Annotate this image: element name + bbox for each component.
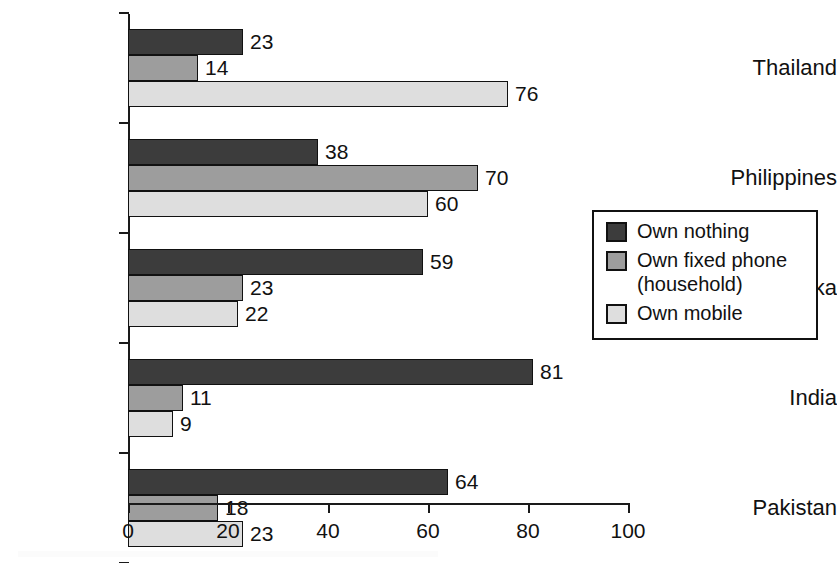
- bar-row: 76: [128, 81, 628, 107]
- y-axis-category-label: Philippines: [719, 165, 837, 191]
- bar-value-label: 23: [243, 29, 273, 55]
- x-axis-tick-label: 0: [98, 518, 158, 543]
- bar[interactable]: [128, 139, 318, 165]
- bar-row: 59: [128, 249, 628, 275]
- bar-row: 64: [128, 469, 628, 495]
- bar-row: 23: [128, 29, 628, 55]
- bar[interactable]: [128, 275, 243, 301]
- legend-item[interactable]: Own fixed phone (household): [606, 248, 816, 296]
- bar-group: 231476: [128, 29, 628, 107]
- bar-row: 9: [128, 411, 628, 437]
- bar-row: 23: [128, 275, 628, 301]
- bar-value-label: 76: [508, 81, 538, 107]
- y-axis-category-label: India: [719, 385, 837, 411]
- bar[interactable]: [128, 191, 428, 217]
- legend-item[interactable]: Own nothing: [606, 219, 816, 243]
- plot-area: 23147638706059232281119641823: [128, 14, 628, 504]
- x-axis-tick-label: 20: [198, 518, 258, 543]
- bar-value-label: 9: [173, 411, 192, 437]
- x-axis-tick: [428, 503, 430, 513]
- bar-value-label: 64: [448, 469, 478, 495]
- bar-group: 387060: [128, 139, 628, 217]
- bar-value-label: 38: [318, 139, 348, 165]
- bar-row: 60: [128, 191, 628, 217]
- x-axis-tick-label: 100: [598, 518, 658, 543]
- y-axis-category-label: Pakistan: [719, 495, 837, 521]
- y-axis-category-label: Thailand: [719, 55, 837, 81]
- scan-artifact: [18, 551, 438, 557]
- bar-group: 81119: [128, 359, 628, 437]
- bar-value-label: 14: [198, 55, 228, 81]
- bar[interactable]: [128, 301, 238, 327]
- bar-value-label: 81: [533, 359, 563, 385]
- legend: Own nothing Own fixed phone (household) …: [592, 210, 818, 340]
- bar-value-label: 11: [183, 385, 212, 411]
- bar[interactable]: [128, 385, 183, 411]
- bar[interactable]: [128, 165, 478, 191]
- x-axis-tick: [528, 503, 530, 513]
- bar-row: 70: [128, 165, 628, 191]
- bar-value-label: 60: [428, 191, 458, 217]
- legend-swatch-icon: [606, 222, 627, 242]
- bar-value-label: 23: [243, 275, 273, 301]
- legend-item-label: Own fixed phone (household): [637, 248, 787, 296]
- x-axis-tick: [628, 503, 630, 513]
- bar-row: 14: [128, 55, 628, 81]
- bar-value-label: 59: [423, 249, 453, 275]
- bar-row: 81: [128, 359, 628, 385]
- bar-value-label: 70: [478, 165, 508, 191]
- legend-swatch-icon: [606, 304, 627, 324]
- x-axis-tick: [328, 503, 330, 513]
- legend-item[interactable]: Own mobile: [606, 301, 816, 325]
- x-axis-tick: [128, 503, 130, 513]
- bar[interactable]: [128, 55, 198, 81]
- bar-row: 22: [128, 301, 628, 327]
- bar-value-label: 22: [238, 301, 268, 327]
- bar[interactable]: [128, 249, 423, 275]
- bar[interactable]: [128, 81, 508, 107]
- bar-row: 11: [128, 385, 628, 411]
- legend-item-label: Own mobile: [637, 301, 743, 325]
- legend-item-label: Own nothing: [637, 219, 749, 243]
- bar-row: 38: [128, 139, 628, 165]
- x-axis-tick: [228, 503, 230, 513]
- bar-chart: 23147638706059232281119641823 ThailandPh…: [0, 0, 837, 563]
- x-axis-tick-label: 80: [498, 518, 558, 543]
- bar[interactable]: [128, 29, 243, 55]
- bar-group: 592322: [128, 249, 628, 327]
- x-axis-line: [128, 503, 628, 505]
- bar[interactable]: [128, 411, 173, 437]
- bar[interactable]: [128, 359, 533, 385]
- x-axis-tick-label: 60: [398, 518, 458, 543]
- legend-swatch-icon: [606, 251, 627, 271]
- bar[interactable]: [128, 469, 448, 495]
- x-axis-tick-label: 40: [298, 518, 358, 543]
